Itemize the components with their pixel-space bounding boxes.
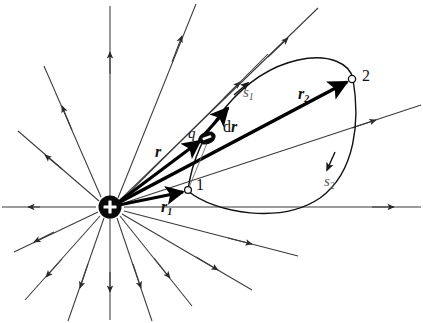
label-vector-dr-d: d [223, 118, 231, 135]
field-line-ne-through-q-arrow [224, 82, 240, 98]
field-line-wsw-arrow [34, 232, 54, 242]
field-line-ne-upper-arrow [268, 38, 288, 57]
field-line-se-arrow [154, 258, 170, 278]
field-line-ssw-arrow [80, 264, 88, 288]
field-line-sse-arrow [133, 264, 141, 288]
field-line-nw-steep-arrow [62, 106, 72, 130]
field-line-ese-shallow [124, 211, 298, 256]
field-line-ese-arrow [196, 257, 218, 270]
label-vector-r2-sub: 2 [304, 93, 309, 104]
point-2-marker [348, 75, 355, 82]
label-vector-r-base: r [155, 143, 161, 160]
field-line-ese [122, 214, 252, 290]
label-vector-dr: dr [223, 119, 237, 135]
label-vector-dr-r: r [231, 118, 237, 135]
label-vector-r2: r2 [298, 86, 309, 104]
radial-field-lines [2, 4, 421, 321]
path-s2-direction-arrow [327, 152, 335, 170]
source-charge [99, 196, 122, 219]
physics-field-diagram: r1 r r2 dr q 1 2 s1 s2 [0, 0, 423, 323]
field-line-ese-shallow-arrow [228, 238, 252, 244]
path-s2-lower [188, 79, 356, 213]
label-point-2: 2 [362, 68, 370, 84]
field-line-nw-steep [44, 66, 101, 197]
field-line-sw-arrow [46, 259, 62, 277]
label-path-s2-sub: 2 [330, 180, 335, 191]
label-moving-charge-q: q [188, 126, 196, 141]
label-vector-r1: r1 [161, 199, 172, 217]
field-line-nw-shallow-arrow [45, 155, 62, 169]
label-vector-r: r [155, 144, 161, 160]
label-point-1-text: 1 [196, 176, 204, 193]
diagram-canvas [0, 0, 423, 323]
label-point-1: 1 [196, 177, 204, 193]
field-line-nne-arrow [172, 36, 182, 62]
path-s2-curve [188, 79, 356, 213]
label-path-s1: s1 [243, 85, 254, 102]
label-point-2-text: 2 [362, 67, 370, 84]
plus-sign-icon-vertical [108, 201, 111, 214]
point-1-marker [185, 187, 192, 194]
label-vector-r1-sub: 1 [167, 206, 172, 217]
label-path-s1-sub: 1 [249, 91, 254, 102]
moving-charge [197, 130, 217, 146]
label-path-s2: s2 [324, 174, 335, 191]
label-moving-charge-q-text: q [188, 125, 196, 141]
